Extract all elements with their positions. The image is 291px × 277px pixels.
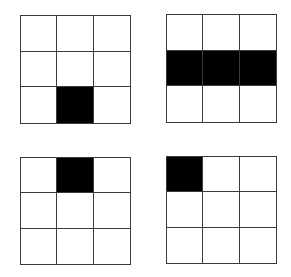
empty-cell	[203, 192, 239, 227]
grid-top-right	[166, 14, 277, 123]
empty-cell	[167, 192, 203, 227]
filled-cell	[57, 87, 93, 123]
empty-cell	[240, 228, 276, 263]
empty-cell	[57, 52, 93, 88]
grid-bottom-left	[20, 157, 131, 265]
empty-cell	[240, 192, 276, 227]
empty-cell	[57, 193, 93, 228]
empty-cell	[94, 193, 130, 228]
empty-cell	[21, 87, 57, 123]
empty-cell	[57, 16, 93, 52]
empty-cell	[94, 87, 130, 123]
empty-cell	[240, 157, 276, 192]
filled-cell	[240, 51, 276, 87]
filled-cell	[203, 51, 239, 87]
empty-cell	[203, 157, 239, 192]
filled-cell	[167, 157, 203, 192]
empty-cell	[94, 16, 130, 52]
empty-cell	[57, 229, 93, 264]
empty-cell	[203, 86, 239, 122]
empty-cell	[167, 15, 203, 51]
empty-cell	[203, 228, 239, 263]
grid-bottom-right	[166, 156, 277, 264]
empty-cell	[94, 158, 130, 193]
empty-cell	[21, 193, 57, 228]
empty-cell	[167, 86, 203, 122]
grid-top-left	[20, 15, 131, 124]
empty-cell	[21, 16, 57, 52]
empty-cell	[240, 86, 276, 122]
empty-cell	[21, 52, 57, 88]
filled-cell	[57, 158, 93, 193]
empty-cell	[21, 158, 57, 193]
filled-cell	[167, 51, 203, 87]
empty-cell	[167, 228, 203, 263]
empty-cell	[203, 15, 239, 51]
empty-cell	[94, 52, 130, 88]
empty-cell	[240, 15, 276, 51]
empty-cell	[94, 229, 130, 264]
empty-cell	[21, 229, 57, 264]
